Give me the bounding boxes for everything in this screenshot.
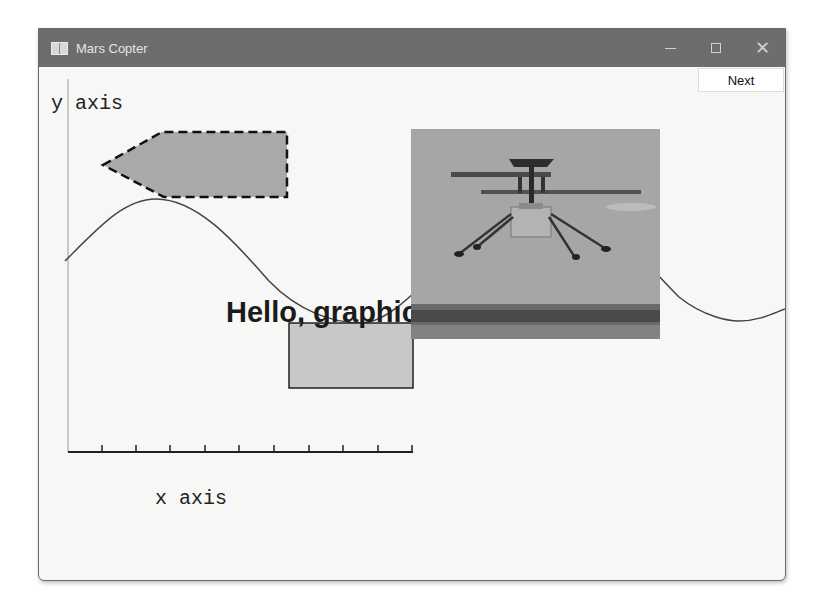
x-axis-label: x axis: [155, 487, 227, 510]
graphics-canvas-area: y axis x axis Hello, graphics: [39, 67, 785, 580]
x-axis: [68, 445, 413, 452]
title-bar[interactable]: Mars Copter ✕: [39, 29, 785, 67]
close-button[interactable]: ✕: [739, 29, 785, 67]
maximize-icon: [711, 43, 721, 53]
x-axis-ticks: [102, 445, 412, 452]
pentagon-shape: [103, 132, 287, 197]
hello-text: Hello, graphics: [226, 296, 434, 329]
y-axis-label: y axis: [51, 92, 123, 115]
mars-helicopter-image: [411, 129, 660, 339]
window-controls: ✕: [647, 29, 785, 67]
rectangle-shape: [289, 323, 413, 388]
app-window: Mars Copter ✕: [38, 28, 786, 581]
close-icon: ✕: [755, 39, 770, 57]
maximize-button[interactable]: [693, 29, 739, 67]
window-title: Mars Copter: [76, 41, 148, 56]
minimize-button[interactable]: [647, 29, 693, 67]
next-button[interactable]: Next: [698, 68, 784, 92]
minimize-icon: [665, 48, 676, 49]
app-icon: [51, 42, 68, 55]
